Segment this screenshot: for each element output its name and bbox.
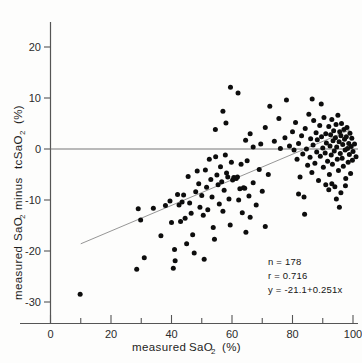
data-point: [218, 164, 223, 169]
y-axis-title-units: (%): [12, 105, 24, 124]
data-point: [242, 186, 247, 191]
data-point: [212, 237, 217, 242]
data-point: [260, 189, 265, 194]
x-tick-label-100: 100: [344, 328, 362, 340]
data-point: [197, 205, 202, 210]
data-point: [228, 222, 233, 227]
y-axis-title-symbol2: tcSaO: [12, 135, 24, 169]
data-point: [340, 156, 345, 161]
x-tick-label-60: 60: [226, 328, 238, 340]
data-point: [278, 146, 283, 151]
data-point: [220, 209, 225, 214]
data-point: [330, 162, 335, 167]
data-point: [223, 120, 228, 125]
data-point: [320, 145, 325, 150]
data-point: [207, 157, 212, 162]
data-point: [326, 187, 331, 192]
data-point: [136, 206, 141, 211]
data-point: [308, 136, 313, 141]
data-point: [316, 178, 321, 183]
data-point: [344, 125, 349, 130]
data-point: [323, 182, 328, 187]
data-point: [187, 201, 192, 206]
data-point: [347, 131, 352, 136]
data-point: [312, 161, 317, 166]
y-axis-title-middle: minus: [12, 177, 24, 210]
data-point: [263, 224, 268, 229]
data-point: [290, 129, 295, 134]
data-point: [329, 117, 334, 122]
data-point: [222, 188, 227, 193]
data-point: [248, 131, 253, 136]
data-point: [315, 137, 320, 142]
data-point: [302, 194, 307, 199]
data-point: [309, 170, 314, 175]
data-point: [335, 113, 340, 118]
data-point: [248, 215, 253, 220]
y-axis-title-subscript2: 2: [18, 130, 27, 135]
data-point: [321, 165, 326, 170]
data-point: [226, 196, 231, 201]
data-point: [292, 148, 297, 153]
data-point: [302, 212, 307, 217]
data-point: [258, 141, 263, 146]
data-point: [336, 168, 341, 173]
data-point: [201, 213, 206, 218]
data-point: [311, 118, 316, 123]
data-point: [306, 112, 311, 117]
data-point: [213, 154, 218, 159]
data-point: [303, 126, 308, 131]
data-point: [202, 257, 207, 262]
data-point: [334, 122, 339, 127]
data-point: [310, 97, 315, 102]
data-point: [236, 198, 241, 203]
data-point: [251, 180, 256, 185]
data-point: [205, 207, 210, 212]
data-point: [151, 206, 156, 211]
scatter-plot-figure: 20100-10-20-30 020406080100 measured SaO…: [0, 0, 362, 363]
data-point: [344, 134, 349, 139]
x-tick-label-40: 40: [165, 328, 177, 340]
y-axis-ticks: 20100-10-20-30: [25, 41, 50, 308]
data-point: [245, 158, 250, 163]
x-axis-title-subscript: 2: [211, 347, 216, 356]
data-point: [333, 135, 338, 140]
data-point: [214, 173, 219, 178]
data-point: [172, 247, 177, 252]
data-point: [219, 179, 224, 184]
data-point: [327, 172, 332, 177]
statistics-annotation: n = 178 r = 0.716 y = -21.1+0.251x: [268, 256, 343, 295]
data-point: [239, 162, 244, 167]
data-point: [314, 130, 319, 135]
data-point: [195, 168, 200, 173]
data-point: [352, 141, 357, 146]
data-point: [263, 125, 268, 130]
data-point: [328, 143, 333, 148]
data-point: [298, 175, 303, 180]
data-point: [343, 176, 348, 181]
data-point: [343, 183, 348, 188]
data-point: [158, 233, 163, 238]
data-point: [296, 191, 301, 196]
data-point: [196, 181, 201, 186]
data-point: [318, 154, 323, 159]
data-point: [243, 230, 248, 235]
data-point: [339, 121, 344, 126]
data-point: [350, 158, 355, 163]
x-tick-label-20: 20: [105, 328, 117, 340]
data-point: [325, 159, 330, 164]
data-point: [276, 116, 281, 121]
data-point: [199, 193, 204, 198]
y-axis-title-subscript1: 2: [18, 214, 27, 219]
data-point: [225, 175, 230, 180]
data-point: [340, 142, 345, 147]
data-point: [351, 149, 356, 154]
data-point: [186, 174, 191, 179]
data-point: [335, 157, 340, 162]
x-tick-label-0: 0: [47, 328, 53, 340]
data-point: [341, 164, 346, 169]
data-point: [319, 134, 324, 139]
data-point: [217, 202, 222, 207]
data-point: [175, 192, 180, 197]
data-point: [348, 171, 353, 176]
